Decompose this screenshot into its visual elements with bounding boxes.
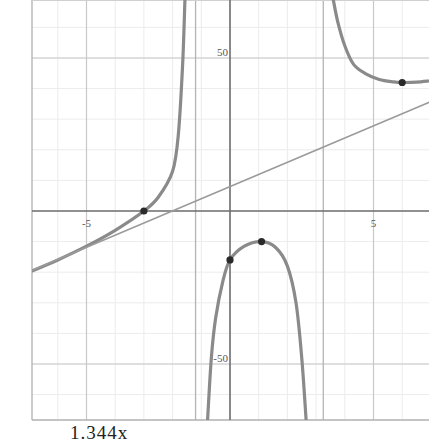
caption-text: 1.344x xyxy=(70,422,128,443)
x-tick-label: -5 xyxy=(82,217,92,229)
data-point xyxy=(226,256,233,263)
x-tick-label: 5 xyxy=(371,217,377,229)
data-point xyxy=(258,238,265,245)
data-point xyxy=(140,207,147,214)
function-curve-branch xyxy=(32,0,185,271)
caption-label: 1.344x xyxy=(70,422,128,443)
data-point xyxy=(399,79,406,86)
function-curve-branch xyxy=(333,0,429,82)
function-curve-branch xyxy=(208,242,306,420)
axes xyxy=(32,0,429,420)
y-tick-label: 50 xyxy=(217,46,229,58)
y-tick-label: -50 xyxy=(213,352,228,364)
